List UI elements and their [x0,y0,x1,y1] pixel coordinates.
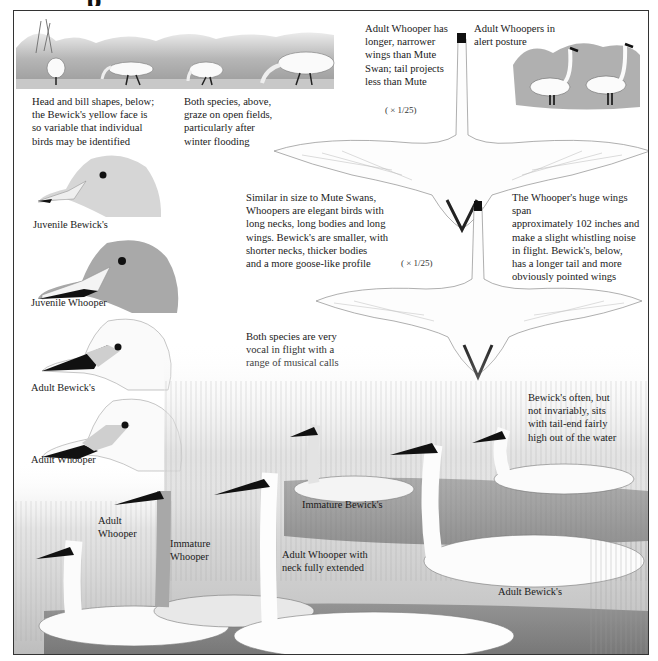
label-adult-whooper-swimming: Adult Whooper [98,515,137,540]
illustration-plate: Head and bill shapes, below; the Bewick'… [13,10,649,655]
page-title-fragment: p [86,0,106,6]
swimming-swans-scene [14,341,648,654]
label-adult-whooper-extended: Adult Whooper with neck fully extended [282,549,368,574]
label-immature-bewicks: Immature Bewick's [302,499,383,512]
label-adult-bewicks: Adult Bewick's [498,586,562,599]
head-shapes-caption: Head and bill shapes, below; the Bewick'… [32,95,154,148]
tail-end-caption: Bewick's often, but not invariably, sits… [528,391,616,444]
head-juvenile-bewicks [26,149,166,219]
head-label-juvenile-whooper: Juvenile Whooper [31,297,107,310]
label-immature-whooper: Immature Whooper [170,538,210,563]
grazing-caption: Both species, above, graze on open field… [184,95,272,148]
head-label-juvenile-bewicks: Juvenile Bewick's [33,219,108,232]
